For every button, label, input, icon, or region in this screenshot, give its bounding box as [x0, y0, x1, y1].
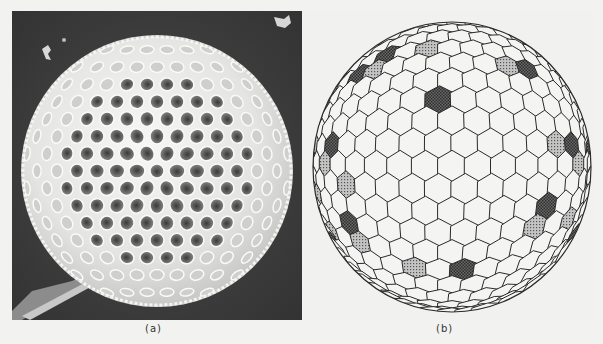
- panel-a-photo: [12, 11, 302, 320]
- caption-a: (a): [145, 323, 162, 334]
- panel-b-diagram: [302, 11, 594, 320]
- tessellated-sphere-diagram: [302, 11, 594, 320]
- caption-b: (b): [436, 323, 453, 334]
- sem-sphere-image: [12, 11, 302, 320]
